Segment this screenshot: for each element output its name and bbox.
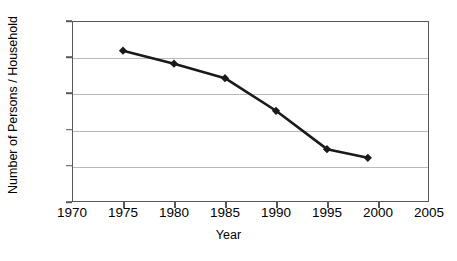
gridline bbox=[73, 94, 428, 95]
x-axis-tick-mark bbox=[378, 202, 380, 208]
x-axis-tick-mark bbox=[327, 202, 329, 208]
y-axis-tick-mark bbox=[66, 165, 72, 167]
x-axis-title-label: Year bbox=[216, 228, 241, 242]
gridline bbox=[73, 167, 428, 168]
y-axis-tick-mark bbox=[66, 201, 72, 203]
x-axis-tick-mark bbox=[123, 202, 125, 208]
plot-area bbox=[72, 21, 429, 202]
x-axis-tick-mark bbox=[174, 202, 176, 208]
x-axis-tick-label: 2005 bbox=[399, 205, 457, 220]
gridline bbox=[73, 131, 428, 132]
gridline bbox=[73, 58, 428, 59]
line-chart: Number of Persons / Household Year 4.004… bbox=[0, 0, 457, 261]
y-axis-title-label: Number of Persons / Household bbox=[6, 16, 20, 194]
y-axis-title: Number of Persons / Household bbox=[0, 0, 26, 210]
x-axis-tick-mark bbox=[276, 202, 278, 208]
y-axis-tick-mark bbox=[66, 93, 72, 95]
y-axis-tick-mark bbox=[66, 56, 72, 58]
x-axis-title: Year bbox=[0, 228, 457, 242]
x-axis-tick-mark bbox=[225, 202, 227, 208]
y-axis-tick-mark bbox=[66, 129, 72, 131]
y-axis-tick-mark bbox=[66, 20, 72, 22]
